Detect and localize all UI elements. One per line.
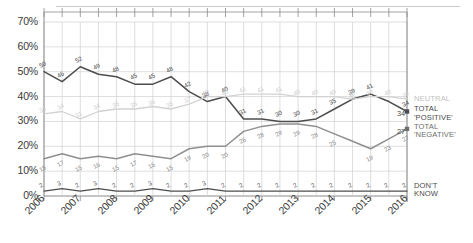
y-axis-tick-label: 50%	[0, 65, 38, 77]
y-axis-tick-label: 20%	[0, 139, 38, 151]
legend-label-neutral: NEUTRAL	[414, 95, 450, 103]
legend-label-positive: TOTAL 'POSITIVE'	[414, 105, 453, 122]
y-axis-tick-label: 60%	[0, 40, 38, 52]
y-axis-tick-label: 70%	[0, 15, 38, 27]
end-value-positive: 34	[397, 109, 405, 118]
y-axis-tick-label: 30%	[0, 114, 38, 126]
y-axis-tick-label: 10%	[0, 164, 38, 176]
y-axis-tick-label: 40%	[0, 90, 38, 102]
end-value-negative: 27	[397, 127, 405, 136]
line-chart: 0%10%20%30%40%50%60%70%50465249484545484…	[0, 0, 473, 243]
legend-label-dont-know: DON'T KNOW	[414, 182, 438, 199]
legend-label-negative: TOTAL 'NEGATIVE'	[414, 123, 456, 140]
